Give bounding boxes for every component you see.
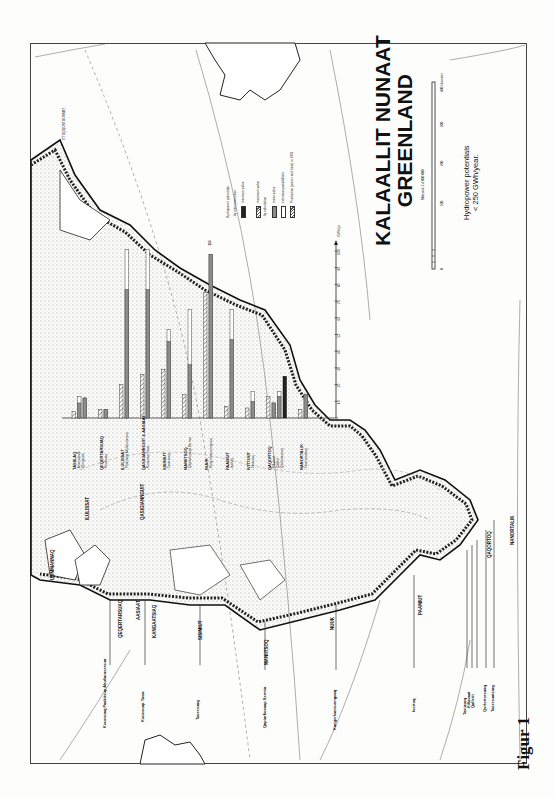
- legend-item: mean value: [272, 187, 277, 218]
- bar-production: [225, 406, 229, 418]
- coast-town-label: ILULISSAT: [85, 497, 90, 520]
- bar-mean: [188, 365, 192, 418]
- map-svg: 102030405060708090100GWh/yr116: [0, 0, 554, 798]
- legend-item: minimum value: [241, 182, 246, 218]
- legend-item: - by interconnection: [233, 190, 237, 218]
- figure-caption: Figur 1: [514, 717, 534, 770]
- scale-bar: [432, 82, 435, 269]
- site-label: Kuussuup Tasia: [140, 691, 145, 722]
- chart-town-label: MANIITSOQ- Qapiarfiusaap Sermia: [183, 437, 192, 470]
- site-name: - Qapiarfiusaap Sermia: [188, 437, 192, 470]
- site-label: Kangerluarsunnguaq: [332, 690, 337, 730]
- bar-production: [299, 410, 303, 418]
- subtitle-line-1: Hydropower potentials: [462, 145, 471, 220]
- legend-swatch: [290, 206, 295, 218]
- coast-town-label: UUMMANNAQ: [50, 550, 55, 581]
- chart-town-label: TASIILAQ- Ammassalik- Qinnguata: [72, 451, 85, 470]
- bar-mean: [167, 341, 171, 418]
- y-tick-label: 70: [337, 300, 341, 304]
- legend-label: Production (power and heat) in 1991: [290, 151, 294, 203]
- site-name: - Paakitsup Akuliarusersua: [125, 432, 129, 470]
- chart-town-label: IVITTUUT- Tasiusaq: [246, 452, 255, 470]
- site-label: Qapiarfiusaap Sermia: [262, 687, 267, 728]
- site-name: - Tasersuaq: [167, 453, 171, 470]
- bar-interconnection: [283, 376, 287, 418]
- legend-label: mean value: [272, 187, 276, 203]
- coast-town-label: QAQORTOQ: [487, 531, 492, 558]
- bar-production: [141, 375, 145, 418]
- bar-production: [120, 385, 124, 418]
- bar-annotation: 116: [208, 240, 212, 246]
- bar-production: [183, 395, 187, 418]
- chart-town-label: QASIGIANNGUIT & AASIAAT- Kuussuup Tasia: [141, 415, 150, 470]
- town-name: NUUK: [204, 438, 209, 470]
- bar-mean: [83, 398, 87, 418]
- bar-mean: [78, 403, 82, 418]
- bar-mean: [209, 254, 213, 418]
- town-name: QAQORTOQ: [267, 446, 272, 470]
- site-name: - Qallerit: [276, 446, 280, 470]
- coast-town-label: AASIAAT: [136, 600, 141, 620]
- coast-town-label: PAAMIUT: [418, 595, 423, 615]
- legend-swatch: [241, 206, 246, 218]
- site-name: - Qinnguata: [81, 451, 85, 470]
- coast-town-label: NUUK: [330, 617, 335, 630]
- site-name: - Qorlortorsuaq: [280, 446, 284, 470]
- chart-town-label: NUUK- Kangerluarsunnguaq: [204, 438, 213, 470]
- bar-production: [99, 410, 103, 418]
- coast-town-label: KANGAATSIAQ: [152, 605, 157, 638]
- scale-text: Målestok 1:4 000 000: [421, 170, 425, 200]
- bar-production: [162, 370, 166, 418]
- site-name: - Tasersuatsiaq: [304, 444, 308, 470]
- town-name: QEQERTARSUAQ: [99, 436, 104, 470]
- town-name: IVITTUUT: [246, 452, 251, 470]
- site-name: - Kuussuaq: [104, 436, 108, 470]
- legend-item: - by calculation: [263, 197, 267, 218]
- coast-town-label: QASIGIANNGUIT: [140, 484, 145, 520]
- site-name: - Isortoq: [230, 452, 234, 470]
- y-tick-label: 20: [337, 384, 341, 388]
- bar-mean: [146, 289, 150, 418]
- bar-production: [246, 408, 250, 418]
- legend-item: maximum value: [256, 181, 261, 218]
- bar-mean: [125, 289, 129, 418]
- coast-town-label: MANIITSOQ: [264, 640, 269, 666]
- ittoqqortoormiit-label: ITTOQQORTOORMIIT: [62, 108, 66, 140]
- y-tick-label: 10: [337, 400, 341, 404]
- chart-town-label: SISIMIUT- Tasersuaq: [162, 453, 171, 470]
- chart-town-label: PAAMIUT- Isortoq: [225, 452, 234, 470]
- y-tick-label: 100: [337, 249, 341, 255]
- coast-town-label: QEQERTARSUAQ: [118, 600, 123, 638]
- legend-item: extension possibilities: [281, 172, 286, 218]
- chart-town-label: QAQORTOQ- Killavaat- Qallerit- Qorlortor…: [267, 446, 284, 470]
- town-name: NANORTALIK: [299, 444, 304, 470]
- site-name: - Kangerluarsunnguaq: [209, 438, 213, 470]
- scale-tick-100: 100: [440, 201, 444, 206]
- bar-mean: [304, 395, 308, 418]
- scale-tick-0: 0: [440, 268, 444, 270]
- bar-mean: [251, 401, 255, 418]
- bar-mean: [104, 410, 108, 418]
- bar-mean: [278, 396, 282, 418]
- legend-item: Hydropower potentials:: [226, 185, 230, 218]
- legend-swatch: [281, 206, 286, 218]
- y-axis-label: GWh/yr: [337, 224, 341, 237]
- town-name: ILULISSAT: [120, 432, 125, 470]
- bar-production: [204, 293, 208, 418]
- title-line-1: KALAALLIT NUNAAT: [372, 35, 394, 246]
- y-tick-label: 60: [337, 317, 341, 321]
- coast-town-label: NANORTALIK: [510, 516, 515, 545]
- bar-mean: [230, 340, 234, 418]
- town-name: MANIITSOQ: [183, 437, 188, 470]
- legend-item: Production (power and heat) in 1991: [290, 151, 295, 218]
- legend-label: - by calculation: [263, 197, 267, 218]
- town-name: SISIMIUT: [162, 453, 167, 470]
- legend-swatch: [256, 206, 261, 218]
- site-name: - Tasiusaq: [251, 452, 255, 470]
- site-label: Qorlortorsuaq: [482, 685, 487, 712]
- bar-production: [267, 396, 271, 418]
- site-label: Tasersuatsiaq: [490, 685, 495, 712]
- coast-town-label: SISIMIUT: [198, 620, 203, 640]
- y-tick-label: 80: [337, 283, 341, 287]
- site-name: - Killavaat: [272, 446, 276, 470]
